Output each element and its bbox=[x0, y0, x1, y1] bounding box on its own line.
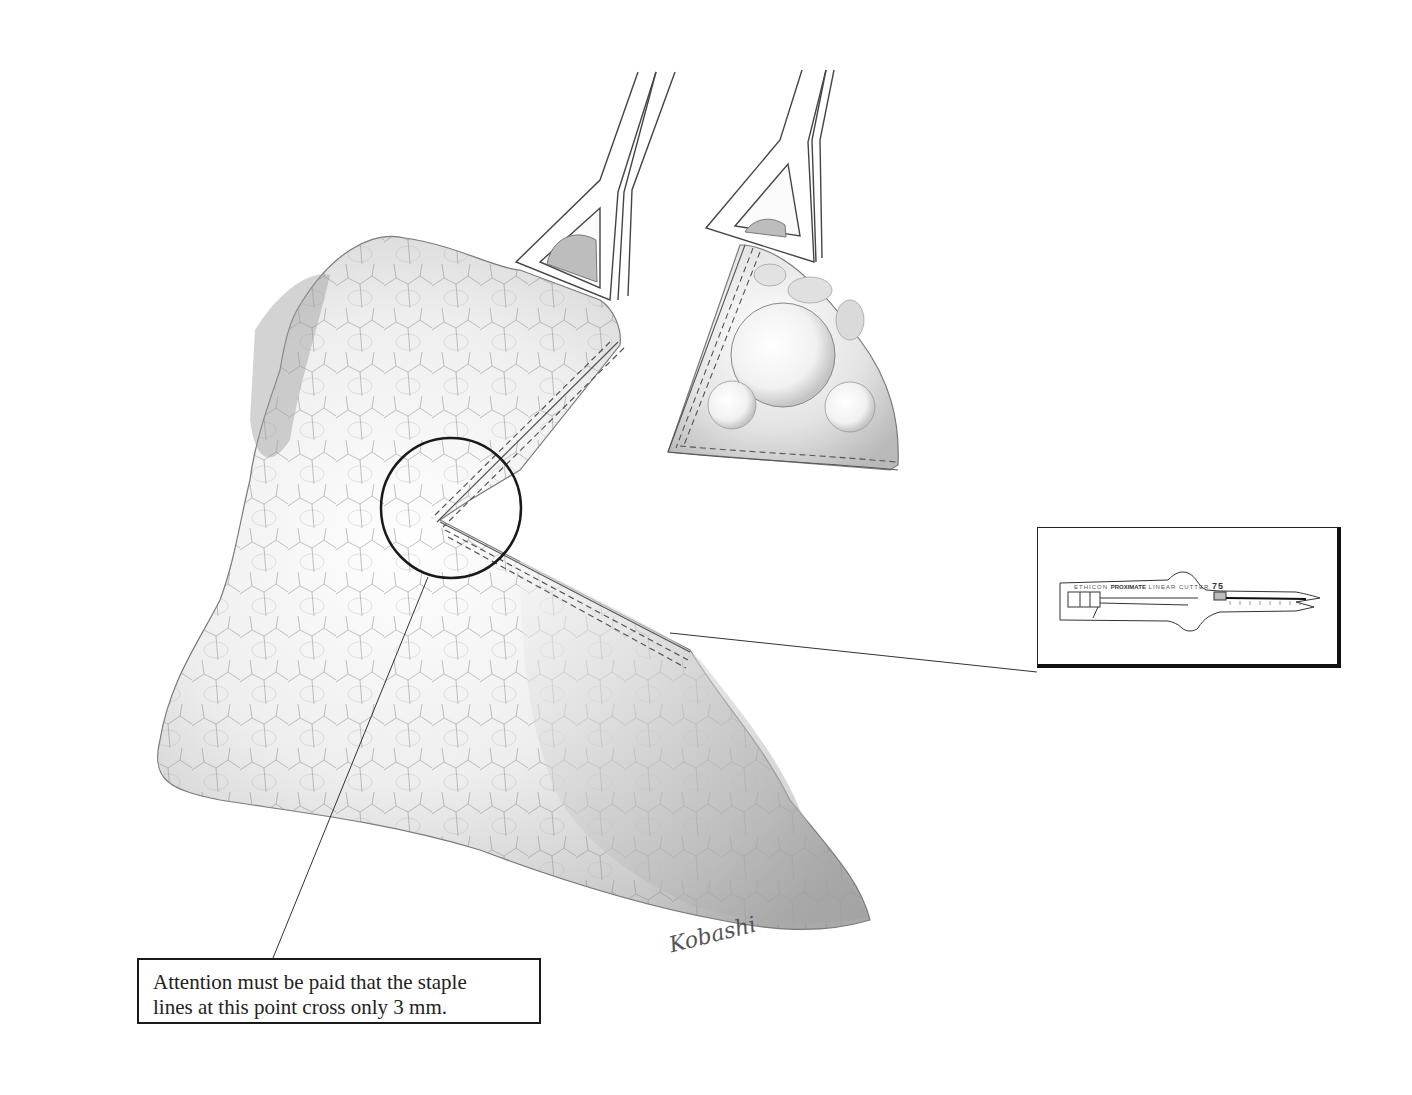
inset-leader-line bbox=[670, 633, 1037, 672]
cyst-small-right bbox=[825, 382, 875, 432]
forceps-right bbox=[706, 70, 834, 262]
stapler-brand: ETHICON bbox=[1074, 584, 1108, 590]
linear-cutter-stapler-icon bbox=[1038, 528, 1338, 665]
callout-line-2: lines at this point cross only 3 mm. bbox=[153, 995, 525, 1020]
stapler-product: PROXIMATE bbox=[1111, 584, 1146, 590]
stapler-inset: ETHICON PROXIMATE LINEAR CUTTER 75 bbox=[1037, 527, 1341, 668]
cyst-small-left bbox=[708, 381, 756, 429]
excised-specimen bbox=[668, 245, 898, 470]
callout-note: Attention must be paid that the staple l… bbox=[137, 958, 541, 1024]
callout-line-1: Attention must be paid that the staple bbox=[153, 970, 525, 995]
stapler-model: LINEAR CUTTER bbox=[1149, 584, 1210, 590]
stapler-label: ETHICON PROXIMATE LINEAR CUTTER 75 bbox=[1074, 581, 1224, 591]
forceps-left bbox=[516, 72, 675, 300]
stapler-size: 75 bbox=[1212, 581, 1224, 591]
